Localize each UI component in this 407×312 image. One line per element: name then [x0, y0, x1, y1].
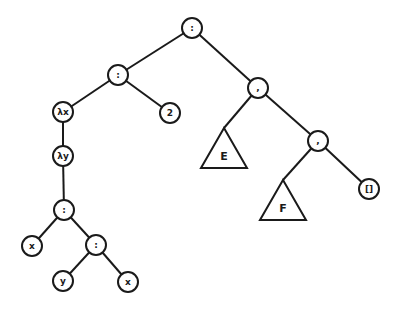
- tree-node-x2: x: [118, 272, 138, 292]
- node-label: x: [125, 277, 131, 287]
- node-label: λy: [57, 151, 69, 161]
- tree-node-nil: []: [359, 179, 379, 199]
- tree-node-comma1: ,: [248, 78, 268, 98]
- tree-node-cons2: :: [54, 200, 74, 220]
- node-label: ,: [256, 83, 259, 93]
- node-label: :: [94, 240, 98, 250]
- node-label: E: [220, 150, 228, 163]
- node-label: F: [279, 202, 287, 215]
- edge-root-to-cons1: [118, 28, 192, 75]
- node-label: :: [190, 23, 194, 33]
- edges-layer: [32, 28, 369, 282]
- tree-node-lamy: λy: [53, 146, 73, 166]
- node-label: ,: [316, 136, 319, 146]
- tree-node-F: F: [260, 180, 306, 220]
- tree-svg: ::λx2λy:x:yx,E,F[]: [0, 0, 407, 312]
- node-label: :: [62, 205, 66, 215]
- tree-node-cons3: :: [86, 235, 106, 255]
- edge-root-to-comma1: [192, 28, 258, 88]
- syntax-tree-diagram: ::λx2λy:x:yx,E,F[]: [0, 0, 407, 312]
- node-label: x: [29, 241, 35, 251]
- node-label: 2: [167, 108, 173, 118]
- tree-node-x1: x: [22, 236, 42, 256]
- tree-node-two: 2: [160, 103, 180, 123]
- tree-node-root: :: [182, 18, 202, 38]
- node-label: :: [116, 70, 120, 80]
- tree-node-lamx: λx: [53, 102, 73, 122]
- nodes-layer: ::λx2λy:x:yx,E,F[]: [22, 18, 379, 292]
- tree-node-y1: y: [53, 271, 73, 291]
- tree-node-cons1: :: [108, 65, 128, 85]
- node-label: y: [60, 276, 66, 286]
- edge-comma1-to-comma2: [258, 88, 318, 141]
- node-label: []: [365, 184, 373, 194]
- tree-node-comma2: ,: [308, 131, 328, 151]
- tree-node-E: E: [201, 128, 247, 168]
- node-label: λx: [57, 107, 69, 117]
